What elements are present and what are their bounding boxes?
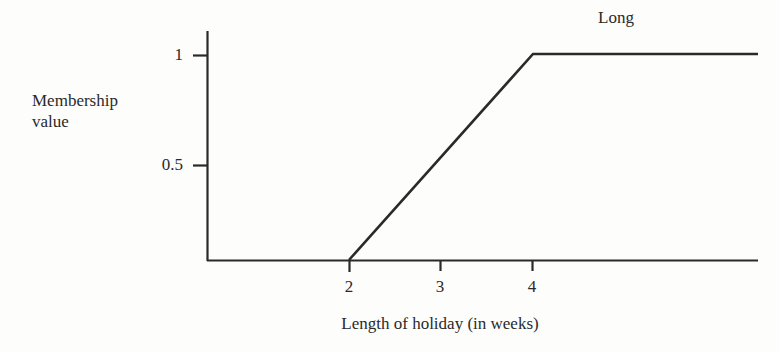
x-tick-label-2: 2 [329,277,369,297]
y-tick-label-1: 1 [113,45,183,65]
fuzzy-set-label-long: Long [566,7,666,28]
x-tick-label-4: 4 [512,277,552,297]
y-axis-title: Membershipvalue [32,90,118,133]
y-axis-title-line-2: value [32,111,118,132]
x-axis-title: Length of holiday (in weeks) [290,313,590,334]
fuzzy-membership-chart: Long Membershipvalue 1 0.5 2 3 4 Length … [0,0,780,352]
y-tick-label-0point5: 0.5 [113,155,183,175]
membership-function-line [349,54,758,260]
y-axis-title-line-1: Membership [32,91,118,110]
x-tick-label-3: 3 [420,277,460,297]
